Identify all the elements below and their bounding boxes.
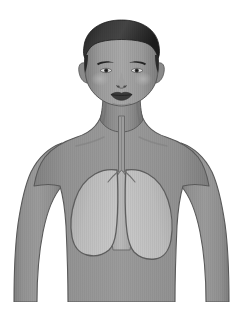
eye-right	[131, 68, 143, 72]
nostril-right	[123, 85, 126, 87]
nostril-left	[117, 85, 120, 87]
respiratory-system-illustration: Human Respiratory System Anatomy Adult h…	[0, 0, 243, 322]
eye-left-pupil	[105, 70, 107, 72]
anatomy-figure-svg	[0, 0, 243, 322]
cheek-highlight-right	[134, 72, 152, 86]
eye-right-pupil	[136, 70, 138, 72]
bottom-crop-mask	[0, 302, 243, 322]
cheek-highlight-left	[91, 72, 109, 86]
eye-left	[100, 68, 112, 72]
